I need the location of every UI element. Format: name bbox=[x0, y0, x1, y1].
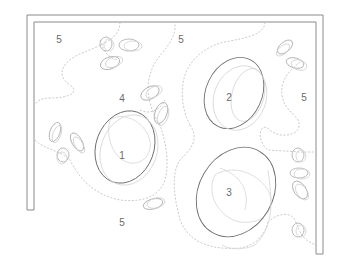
outer-wall bbox=[27, 15, 323, 254]
zone-label-4: 4 bbox=[119, 93, 125, 104]
zone-2-outline bbox=[193, 48, 275, 139]
inner-wall bbox=[34, 22, 316, 254]
zone-outlines bbox=[85, 48, 291, 252]
zone-label-5-top-left: 5 bbox=[56, 34, 62, 45]
floor-plan-diagram bbox=[0, 0, 342, 267]
zone-label-1: 1 bbox=[119, 150, 125, 161]
ghost-shapes bbox=[109, 65, 271, 223]
walls bbox=[27, 15, 323, 254]
zone-label-5-bottom: 5 bbox=[119, 217, 125, 228]
furniture bbox=[47, 37, 311, 237]
zone-3-outline bbox=[180, 133, 291, 251]
zone-label-2: 2 bbox=[226, 92, 232, 103]
zone-label-3: 3 bbox=[226, 187, 232, 198]
zone-label-5-right: 5 bbox=[301, 92, 307, 103]
zone-label-5-top-center: 5 bbox=[178, 34, 184, 45]
zone-1-outline bbox=[85, 102, 165, 191]
circulation-paths bbox=[35, 22, 316, 248]
